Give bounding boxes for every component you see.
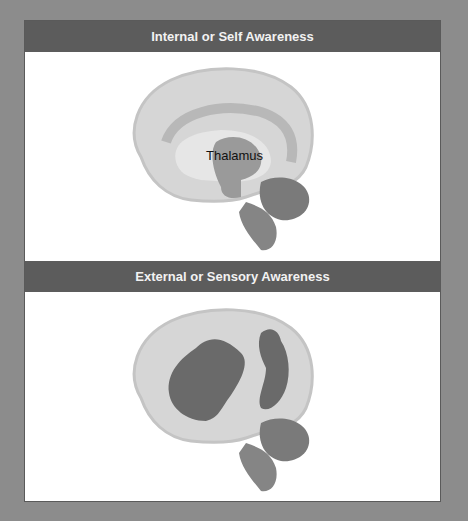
panel-header-internal: Internal or Self Awareness xyxy=(25,21,440,52)
thalamus-label: Thalamus xyxy=(206,148,263,163)
panel-header-external: External or Sensory Awareness xyxy=(25,261,440,292)
brain-lateral-illustration xyxy=(121,303,321,493)
figure-panel: Internal or Self Awareness Thalamus Exte… xyxy=(24,20,441,502)
